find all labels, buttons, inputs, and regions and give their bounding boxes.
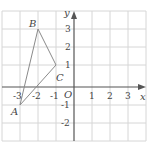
x-tick-1: 1 [89, 91, 95, 101]
y-tick-3: 3 [65, 24, 71, 34]
x-tick--2: -2 [32, 91, 41, 101]
point-a-label: A [10, 106, 18, 117]
y-axis-label: y [63, 7, 70, 18]
y-tick-1: 1 [65, 60, 71, 70]
origin-label: O [64, 89, 72, 100]
x-tick-3: 3 [125, 91, 131, 101]
coordinate-plane: x y O -3 -2 -1 1 2 3 3 2 1 -1 -2 A B C [0, 0, 148, 145]
y-axis [71, 11, 77, 141]
point-b-label: B [28, 18, 36, 29]
x-tick--3: -3 [13, 91, 22, 101]
y-tick-2: 2 [65, 42, 71, 52]
x-axis-label: x [140, 91, 146, 102]
y-tick--2: -2 [61, 118, 70, 128]
x-tick-2: 2 [107, 91, 113, 101]
x-tick--1: -1 [50, 91, 59, 101]
point-c-label: C [56, 72, 64, 83]
y-tick--1: -1 [61, 100, 70, 110]
